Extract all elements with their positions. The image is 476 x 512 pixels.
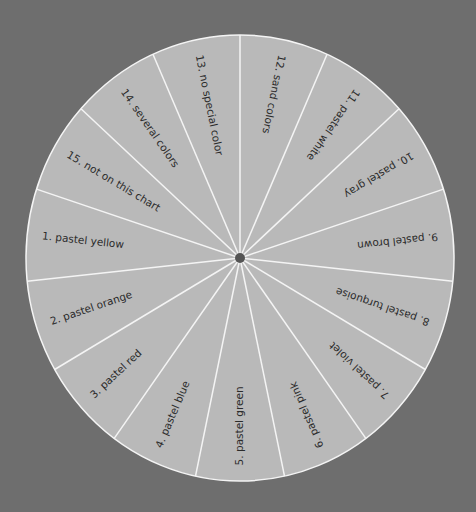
color-wheel: 1. pastel yellow2. pastel orange3. paste… — [0, 0, 476, 512]
center-hub-icon — [235, 253, 245, 263]
segment-label: 5. pastel green — [233, 386, 245, 465]
color-wheel-diagram: 1. pastel yellow2. pastel orange3. paste… — [0, 0, 476, 512]
